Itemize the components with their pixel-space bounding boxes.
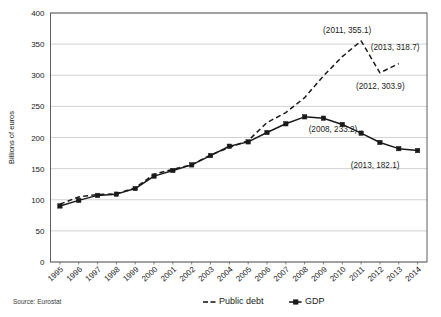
x-axis-tick-label: 1998 — [102, 264, 122, 283]
x-axis-tick-label: 2013 — [385, 264, 405, 283]
data-point-marker — [227, 144, 231, 148]
y-axis-tick-label: 150 — [31, 165, 45, 174]
y-axis-title: Billions of euros — [7, 111, 16, 164]
data-point-marker — [77, 198, 81, 202]
source-label: Source: Eurostat — [13, 298, 62, 305]
data-point-marker — [208, 153, 212, 157]
x-axis-tick-label: 1996 — [65, 264, 85, 283]
data-annotation: (2013, 318.7) — [371, 43, 420, 52]
data-point-marker — [302, 115, 306, 119]
y-axis-tick-labels: 050100150200250300350400 — [31, 9, 45, 267]
data-point-marker — [265, 130, 269, 134]
line-chart: 050100150200250300350400 199519961997199… — [0, 0, 441, 317]
x-axis-tick-label: 2010 — [328, 264, 348, 283]
x-axis-tick-label: 1995 — [46, 264, 66, 283]
data-point-marker — [415, 148, 419, 152]
annotations-layer: (2011, 355.1)(2013, 318.7)(2012, 303.9)(… — [309, 26, 420, 170]
x-axis-tick-label: 2012 — [366, 264, 386, 283]
y-axis-tick-label: 350 — [31, 40, 45, 49]
data-point-marker — [246, 140, 250, 144]
data-annotation: (2012, 303.9) — [356, 82, 405, 91]
chart-legend: Public debtGDP — [203, 296, 325, 306]
x-axis-tick-label: 2002 — [178, 264, 198, 283]
data-point-marker — [58, 204, 62, 208]
x-axis-tick-label: 2004 — [215, 264, 235, 283]
y-axis-tick-label: 100 — [31, 196, 45, 205]
x-axis-tick-label: 2008 — [291, 264, 311, 283]
data-point-marker — [114, 192, 118, 196]
y-axis-tick-label: 200 — [31, 134, 45, 143]
x-axis-tick-label: 2007 — [272, 264, 292, 283]
x-axis-tick-label: 2005 — [234, 264, 254, 283]
x-axis-tick-labels: 1995199619971998199920002001200220032004… — [46, 264, 423, 283]
data-point-marker — [189, 163, 193, 167]
data-series-layer — [58, 41, 420, 208]
data-point-marker — [397, 146, 401, 150]
series-line-public-debt — [60, 41, 399, 204]
x-axis-tick-label: 2014 — [404, 264, 424, 283]
data-point-marker — [284, 122, 288, 126]
data-point-marker — [378, 140, 382, 144]
chart-container: 050100150200250300350400 199519961997199… — [0, 0, 441, 317]
data-annotation: (2008, 233.2) — [309, 125, 358, 134]
x-axis-tick-label: 2011 — [348, 264, 367, 283]
data-point-marker — [95, 193, 99, 197]
legend-swatch-marker — [293, 299, 298, 304]
data-point-marker — [321, 116, 325, 120]
y-axis-tick-label: 300 — [31, 71, 45, 80]
x-axis-tick-label: 1997 — [84, 264, 104, 283]
y-axis-tick-label: 50 — [36, 227, 45, 236]
data-annotation: (2011, 355.1) — [323, 26, 371, 35]
x-axis-tick-label: 2006 — [253, 264, 273, 283]
data-point-marker — [133, 186, 137, 190]
data-point-marker — [359, 131, 363, 135]
legend-item-label: Public debt — [219, 296, 264, 306]
data-point-marker — [171, 168, 175, 172]
x-axis-tick-label: 2001 — [159, 264, 179, 283]
y-axis-tick-label: 0 — [40, 258, 45, 267]
x-axis-tick-label: 2000 — [140, 264, 160, 283]
x-axis-tick-label: 2003 — [197, 264, 217, 283]
legend-item-label: GDP — [305, 296, 325, 306]
y-axis-tick-label: 400 — [31, 9, 45, 18]
x-axis-tick-label: 1999 — [121, 264, 141, 283]
data-annotation: (2013, 182.1) — [351, 161, 400, 170]
y-axis-tick-label: 250 — [31, 102, 45, 111]
data-point-marker — [152, 174, 156, 178]
x-axis-tick-label: 2009 — [310, 264, 330, 283]
